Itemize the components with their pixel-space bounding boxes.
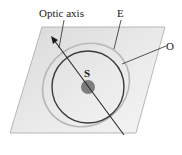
o-label: O	[166, 40, 174, 52]
e-label: E	[117, 7, 124, 19]
s-label: S	[84, 67, 90, 79]
optic-axis-label: Optic axis	[39, 7, 84, 19]
birefringence-diagram: Optic axis E O S	[0, 0, 182, 155]
